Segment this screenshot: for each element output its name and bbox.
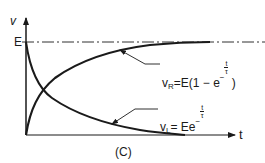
vr-close-paren: ) xyxy=(232,76,236,90)
vr-leader-line xyxy=(120,50,160,64)
vl-equals: = Ee xyxy=(170,120,195,134)
vr-equals: =E(1 − e xyxy=(174,76,220,90)
figure-caption: (C) xyxy=(115,146,132,158)
asymptote-label: E xyxy=(14,36,22,48)
vr-exp-fraction: tτ xyxy=(224,60,228,75)
vl-exp-fraction: tτ xyxy=(200,104,204,119)
y-axis-label: v xyxy=(10,15,16,27)
vr-formula: vR=E(1 − e−tτ ) xyxy=(162,60,236,91)
x-axis-label: t xyxy=(239,128,243,141)
vl-formula: vL= Ee−tτ xyxy=(160,104,204,135)
vl-leader-line xyxy=(112,109,158,124)
